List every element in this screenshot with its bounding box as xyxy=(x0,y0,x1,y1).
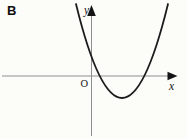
parabola-curve xyxy=(76,4,168,98)
x-axis-arrowhead-icon xyxy=(168,72,178,80)
y-axis-label: y xyxy=(83,4,90,17)
parabola-figure-panel: B y x O xyxy=(0,0,187,139)
x-axis-label: x xyxy=(168,80,175,92)
origin-label: O xyxy=(80,78,88,89)
parabola-plot: y x O xyxy=(0,0,187,139)
